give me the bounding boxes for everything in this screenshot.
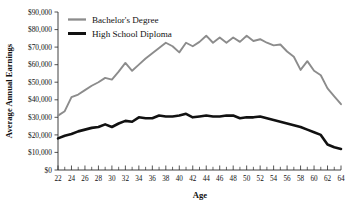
- y-tick-label: $20,000: [28, 131, 52, 140]
- chart-container: Average Annual Earnings $0 $10,000 $20,0…: [0, 0, 350, 206]
- y-axis-ticks: [55, 12, 59, 170]
- y-tick-label: $40,000: [28, 95, 52, 104]
- x-tick-label: 24: [68, 175, 76, 183]
- x-tick-label: 54: [270, 175, 278, 183]
- y-tick-label: $70,000: [28, 43, 52, 52]
- x-axis: 2224262830323436384042444648505254565860…: [54, 166, 345, 201]
- data-series-group: [58, 36, 341, 149]
- x-tick-label: 30: [108, 175, 116, 183]
- x-axis-ticks: [58, 166, 341, 171]
- y-tick-label: $80,000: [28, 25, 52, 34]
- series-line-high-school-diploma: [58, 114, 341, 149]
- x-tick-label: 40: [176, 175, 184, 183]
- x-tick-label: 64: [337, 175, 345, 183]
- x-axis-tick-labels: 2224262830323436384042444648505254565860…: [54, 175, 345, 183]
- x-tick-label: 36: [149, 175, 157, 183]
- x-tick-label: 62: [324, 175, 332, 183]
- legend: Bachelor's Degree High School Diploma: [68, 15, 172, 39]
- y-axis-title: Average Annual Earnings: [4, 43, 14, 138]
- x-tick-label: 42: [189, 175, 197, 183]
- y-tick-label: $10,000: [28, 148, 52, 157]
- x-tick-label: 34: [135, 175, 143, 183]
- x-tick-label: 28: [95, 175, 103, 183]
- x-tick-label: 56: [284, 175, 292, 183]
- x-tick-label: 44: [203, 175, 211, 183]
- x-tick-label: 32: [122, 175, 130, 183]
- y-tick-label: $0: [45, 166, 53, 175]
- y-tick-label: $90,000: [28, 8, 52, 17]
- x-tick-label: 60: [310, 175, 318, 183]
- x-tick-label: 58: [297, 175, 305, 183]
- x-tick-label: 50: [243, 175, 251, 183]
- x-tick-label: 26: [81, 175, 89, 183]
- x-axis-title: Age: [193, 190, 208, 200]
- y-axis: [55, 12, 59, 170]
- x-tick-label: 48: [230, 175, 238, 183]
- x-tick-label: 52: [257, 175, 265, 183]
- y-tick-label: $60,000: [28, 60, 52, 69]
- legend-label-bachelors-degree: Bachelor's Degree: [92, 15, 159, 25]
- y-tick-label: $30,000: [28, 113, 52, 122]
- earnings-by-age-line-chart: Average Annual Earnings $0 $10,000 $20,0…: [0, 0, 350, 206]
- y-axis-title-group: Average Annual Earnings: [4, 43, 14, 138]
- series-line-bachelors-degree: [58, 36, 341, 116]
- x-tick-label: 22: [54, 175, 62, 183]
- legend-label-high-school-diploma: High School Diploma: [92, 29, 172, 39]
- y-tick-label: $50,000: [28, 78, 52, 87]
- x-tick-label: 46: [216, 175, 224, 183]
- x-tick-label: 38: [162, 175, 170, 183]
- y-axis-tick-labels: $0 $10,000 $20,000 $30,000 $40,000 $50,0…: [28, 8, 52, 175]
